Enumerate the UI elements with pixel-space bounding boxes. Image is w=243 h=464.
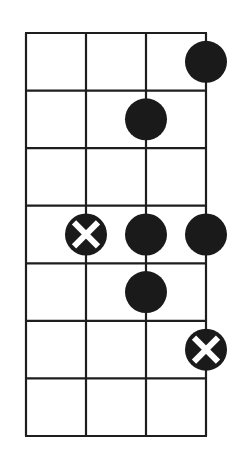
note-dot bbox=[185, 213, 227, 255]
note-dot bbox=[125, 213, 167, 255]
root-note-x-marker bbox=[185, 329, 227, 371]
root-note-x-marker bbox=[65, 213, 107, 255]
fretboard-grid bbox=[25, 33, 207, 436]
fretboard-diagram bbox=[0, 0, 243, 464]
note-dot bbox=[125, 98, 167, 140]
note-dot bbox=[125, 271, 167, 313]
note-dot bbox=[185, 41, 227, 83]
